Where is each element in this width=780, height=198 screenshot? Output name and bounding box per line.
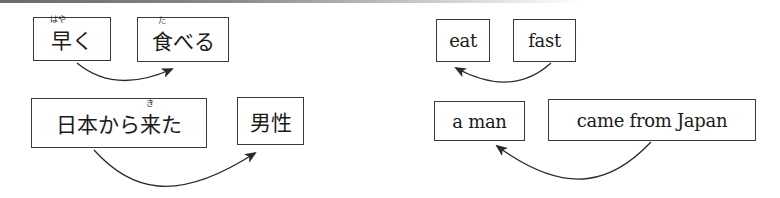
arrow-fast-to-eat [456,63,551,82]
arrow-nihon-to-dansei [94,150,255,186]
arrow-layer [0,0,780,198]
arrow-japan-to-a-man [497,142,651,179]
diagram-canvas: はや早く た食べる 日本からき来た 男性 eat fast a man came… [0,0,780,198]
arrow-hayaku-to-taberu [77,63,172,81]
